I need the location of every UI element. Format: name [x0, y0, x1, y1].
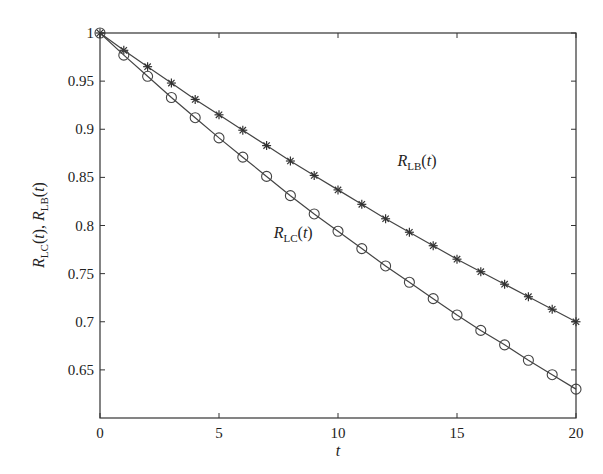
- y-tick-label: 0.95: [68, 73, 94, 89]
- y-tick-label: 0.85: [68, 169, 94, 185]
- data-point-rlb: [405, 228, 414, 237]
- x-tick-label: 0: [96, 425, 104, 441]
- y-axis-label: RLC(t), RLB(t): [30, 182, 50, 269]
- data-point-rlb: [143, 62, 152, 71]
- data-point-rlb: [548, 305, 557, 314]
- x-tick-label: 20: [569, 425, 584, 441]
- y-tick-label: 0.9: [75, 121, 94, 137]
- data-point-rlb: [524, 292, 533, 301]
- series-layer: [95, 28, 581, 394]
- x-axis-label: t: [336, 442, 341, 459]
- plot-frame: [100, 33, 576, 418]
- y-tick-label: 0.7: [75, 314, 94, 330]
- data-point-rlb: [262, 141, 271, 150]
- y-tick-label: 0.65: [68, 362, 94, 378]
- data-point-rlb: [429, 241, 438, 250]
- data-point-rlb: [453, 255, 462, 264]
- data-point-rlb: [310, 171, 319, 180]
- y-tick-label: 1: [87, 25, 95, 41]
- data-point-rlb: [476, 267, 485, 276]
- ticks-layer: 051015200.650.70.750.80.850.90.951: [68, 25, 584, 441]
- series-label-rlc: RLC(t): [273, 224, 313, 244]
- data-point-rlb: [191, 95, 200, 104]
- data-point-rlb: [286, 157, 295, 166]
- data-point-rlb: [357, 200, 366, 209]
- chart: 051015200.650.70.750.80.850.90.951 t RLC…: [0, 0, 603, 474]
- data-point-rlb: [215, 110, 224, 119]
- y-tick-label: 0.75: [68, 266, 94, 282]
- x-tick-label: 15: [450, 425, 465, 441]
- data-point-rlb: [238, 126, 247, 135]
- data-point-rlb: [381, 214, 390, 223]
- data-point-rlb: [500, 280, 509, 289]
- data-point-rlb: [167, 79, 176, 88]
- series-line-rlb: [100, 33, 576, 322]
- y-tick-label: 0.8: [75, 218, 94, 234]
- series-label-rlb: RLB(t): [397, 152, 437, 172]
- x-tick-label: 5: [215, 425, 223, 441]
- x-tick-label: 10: [331, 425, 346, 441]
- data-point-rlb: [334, 185, 343, 194]
